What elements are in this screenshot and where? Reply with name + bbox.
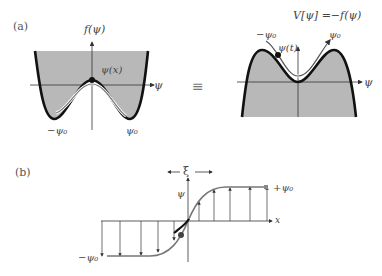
- panel-b-label: (b): [15, 167, 31, 178]
- kink-profile-plot: [101, 172, 272, 262]
- minus-psi0-label: −ψ₀: [78, 253, 98, 263]
- particle-dot: [89, 77, 95, 83]
- psi-axis-label: ψ: [154, 80, 163, 91]
- inverted-potential-plot: [237, 40, 362, 117]
- xi-label: ξ: [183, 166, 189, 177]
- diagram-canvas: [0, 0, 382, 276]
- potential-title: V[ψ] =−f(ψ): [293, 10, 361, 21]
- psi-x-trajectory-label: ψ(x): [101, 65, 122, 75]
- x-axis-label: x: [275, 216, 280, 225]
- particle-dot: [178, 232, 184, 238]
- inverted-potential-fill: [242, 50, 356, 117]
- panel-a-label: (a): [13, 21, 28, 32]
- plus-psi0-label: +ψ₀: [273, 183, 293, 193]
- psi0-label: ψ₀: [126, 126, 138, 136]
- psi-axis-label: ψ: [177, 189, 185, 199]
- psi-axis-label: ψ: [364, 77, 373, 88]
- minus-psi0-label: −ψ₀: [47, 126, 67, 136]
- equivalence-symbol: ≡: [192, 79, 204, 93]
- psi0-label: ψ₀: [329, 30, 341, 40]
- minus-psi0-label: −ψ₀: [256, 30, 276, 40]
- f-psi-axis-label: f(ψ): [84, 24, 105, 35]
- double-well-plot: [30, 42, 154, 130]
- end-marker: [264, 185, 268, 189]
- psi-t-trajectory-label: ψ(t): [278, 43, 298, 53]
